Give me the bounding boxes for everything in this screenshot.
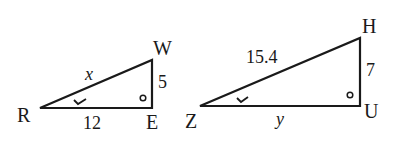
vertex-label-r: R [17,104,31,126]
vertex-label-u: U [364,100,379,122]
angle-mark-r-icon [74,99,86,104]
right-angle-mark-e-icon [140,95,146,101]
vertex-label-w: W [153,37,172,59]
side-label-base-re: 12 [83,113,101,133]
side-label-hypotenuse-rw: x [84,64,93,84]
triangle-zuh: Z U H 15.4 y 7 [185,15,379,132]
vertex-label-e: E [146,111,158,133]
side-label-height-uh: 7 [366,60,375,80]
vertex-label-z: Z [185,110,197,132]
right-angle-mark-u-icon [347,92,353,98]
side-label-hypotenuse-zh: 15.4 [246,47,278,67]
triangle-rew-shape [40,60,152,108]
side-label-height-ew: 5 [158,72,167,92]
triangle-zuh-shape [200,38,360,106]
vertex-label-h: H [362,15,376,37]
triangle-rew: R E W x 12 5 [17,37,172,133]
side-label-base-zu: y [274,109,284,129]
diagram-canvas: R E W x 12 5 Z U H 15.4 y 7 [0,0,413,149]
angle-mark-z-icon [237,97,248,102]
